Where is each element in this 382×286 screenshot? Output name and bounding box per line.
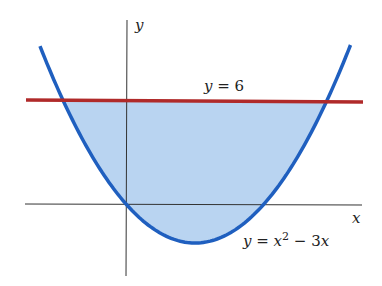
line-label: y = 6	[203, 77, 244, 95]
x-axis-label: x	[352, 209, 361, 227]
y-axis	[126, 20, 127, 276]
curve-label: y = x2 − 3x	[242, 230, 330, 250]
chart: y x y = 6 y = x2 − 3x	[0, 0, 382, 286]
y-axis-label: y	[134, 16, 144, 34]
x-axis	[25, 204, 362, 205]
line-y-6	[26, 100, 363, 102]
